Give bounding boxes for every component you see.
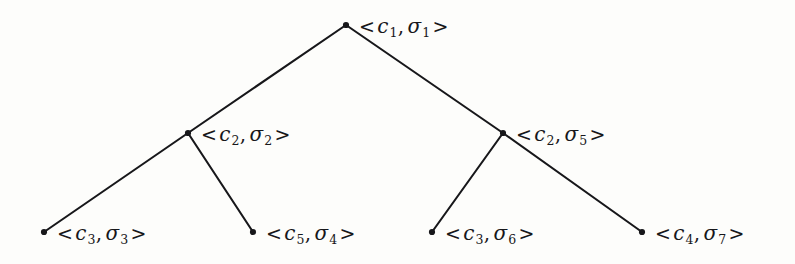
- bracket-open-icon: <: [55, 222, 75, 244]
- config-subscript: 4: [685, 232, 694, 247]
- tree-edge: [432, 133, 503, 232]
- state-symbol: σ: [250, 122, 264, 146]
- state-subscript: 7: [718, 232, 727, 247]
- label-separator: ,: [694, 221, 704, 245]
- config-subscript: 2: [231, 133, 240, 148]
- config-symbol: c: [75, 221, 87, 245]
- tree-node-dot: [250, 229, 256, 235]
- bracket-open-icon: <: [199, 123, 219, 145]
- tree-node-dot: [185, 130, 191, 136]
- label-separator: ,: [240, 122, 250, 146]
- tree-edge: [503, 133, 642, 232]
- tree-edge: [188, 133, 253, 232]
- node-label-root: <c1,σ1>: [357, 16, 451, 36]
- state-symbol: σ: [315, 221, 329, 245]
- bracket-open-icon: <: [264, 222, 284, 244]
- tree-edge: [188, 25, 346, 133]
- bracket-open-icon: <: [653, 222, 673, 244]
- bracket-close-icon: >: [587, 123, 607, 145]
- bracket-open-icon: <: [514, 123, 534, 145]
- node-label-inner-right: <c2,σ5>: [514, 124, 608, 144]
- state-subscript: 6: [508, 232, 517, 247]
- bracket-close-icon: >: [272, 123, 292, 145]
- state-symbol: σ: [494, 221, 508, 245]
- config-subscript: 1: [389, 25, 398, 40]
- tree-node-dot: [41, 229, 47, 235]
- label-separator: ,: [555, 122, 565, 146]
- config-subscript: 3: [475, 232, 484, 247]
- tree-node-dot: [500, 130, 506, 136]
- node-label-leaf-1: <c3,σ3>: [55, 223, 149, 243]
- tree-node-dot: [429, 229, 435, 235]
- state-symbol: σ: [408, 14, 422, 38]
- state-subscript: 5: [579, 133, 588, 148]
- label-separator: ,: [305, 221, 315, 245]
- state-subscript: 2: [264, 133, 273, 148]
- config-symbol: c: [219, 122, 231, 146]
- config-subscript: 3: [87, 232, 96, 247]
- bracket-close-icon: >: [430, 15, 450, 37]
- state-symbol: σ: [106, 221, 120, 245]
- tree-edge: [346, 25, 503, 133]
- node-label-leaf-4: <c4,σ7>: [653, 223, 747, 243]
- tree-edge: [44, 133, 188, 232]
- tree-diagram-figure: <c1,σ1> <c2,σ2> <c2,σ5> <c3,σ3> <c5,σ4> …: [0, 0, 795, 264]
- state-subscript: 3: [120, 232, 129, 247]
- label-separator: ,: [96, 221, 106, 245]
- state-subscript: 4: [329, 232, 338, 247]
- bracket-close-icon: >: [337, 222, 357, 244]
- config-symbol: c: [463, 221, 475, 245]
- tree-node-dot: [639, 229, 645, 235]
- state-symbol: σ: [704, 221, 718, 245]
- config-symbol: c: [284, 221, 296, 245]
- config-subscript: 5: [296, 232, 305, 247]
- node-label-inner-left: <c2,σ2>: [199, 124, 293, 144]
- label-separator: ,: [398, 14, 408, 38]
- bracket-close-icon: >: [726, 222, 746, 244]
- tree-node-dot: [343, 22, 349, 28]
- bracket-close-icon: >: [128, 222, 148, 244]
- config-symbol: c: [377, 14, 389, 38]
- node-label-leaf-3: <c3,σ6>: [443, 223, 537, 243]
- bracket-open-icon: <: [443, 222, 463, 244]
- state-subscript: 1: [422, 25, 431, 40]
- state-symbol: σ: [565, 122, 579, 146]
- bracket-close-icon: >: [516, 222, 536, 244]
- node-label-leaf-2: <c5,σ4>: [264, 223, 358, 243]
- config-symbol: c: [673, 221, 685, 245]
- config-symbol: c: [534, 122, 546, 146]
- bracket-open-icon: <: [357, 15, 377, 37]
- label-separator: ,: [484, 221, 494, 245]
- config-subscript: 2: [546, 133, 555, 148]
